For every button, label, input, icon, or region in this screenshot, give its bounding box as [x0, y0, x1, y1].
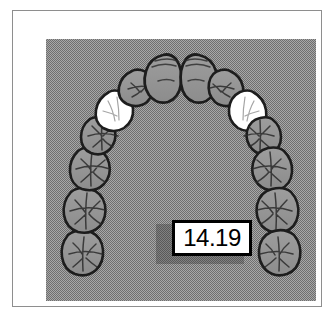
figure-frame: 14.19	[12, 10, 322, 307]
tooth-R5[interactable]	[252, 147, 292, 190]
measurement-value-box[interactable]: 14.19	[172, 220, 252, 256]
tooth-R6[interactable]	[257, 188, 299, 233]
figure-root: 14.19 Maxillary arch occlusal view with …	[0, 0, 335, 317]
tooth-R7[interactable]	[259, 230, 301, 275]
measurement-value-text: 14.19	[183, 226, 241, 250]
tooth-L1[interactable]	[145, 55, 182, 103]
dental-arch-image-plate: 14.19	[46, 39, 316, 301]
tooth-L6[interactable]	[64, 188, 106, 233]
tooth-L7[interactable]	[62, 230, 104, 275]
figure-caption: Maxillary arch occlusal view with interc…	[0, 0, 1, 1]
